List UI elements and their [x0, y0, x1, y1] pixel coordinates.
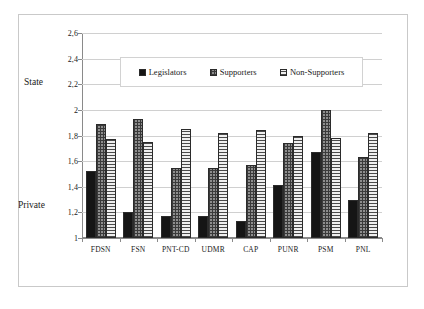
x-tick-mark [195, 238, 196, 242]
legend-swatch-icon [139, 69, 146, 76]
bar-non-supporters[interactable] [256, 130, 266, 238]
legend-item-legislators[interactable]: Legislators [139, 67, 187, 77]
bar-legislators[interactable] [198, 216, 208, 238]
y-tick-label: 1,2 [68, 208, 78, 217]
legend-item-supporters[interactable]: Supporters [210, 67, 257, 77]
x-tick-label-punr: PUNR [278, 245, 299, 254]
x-tick-mark [157, 238, 158, 242]
x-tick-mark [232, 238, 233, 242]
bar-non-supporters[interactable] [218, 133, 228, 238]
y-tick-label: 1,8 [68, 131, 78, 140]
y-tick-label: 1,6 [68, 157, 78, 166]
x-tick-mark [345, 238, 346, 242]
legend: LegislatorsSupportersNon-Supporters [120, 57, 363, 87]
legend-swatch-icon [210, 69, 217, 76]
bar-supporters[interactable] [171, 168, 181, 238]
bar-non-supporters[interactable] [181, 129, 191, 238]
plot-area: 11,21,41,61,822,22,42,6 State Private FD… [82, 33, 382, 238]
x-tick-label-udmr: UDMR [202, 245, 225, 254]
x-tick-mark [120, 238, 121, 242]
bar-legislators[interactable] [86, 171, 96, 238]
bar-supporters[interactable] [133, 119, 143, 238]
y-tick-label: 1 [74, 234, 78, 243]
bar-legislators[interactable] [311, 152, 321, 238]
x-tick-mark [382, 238, 383, 242]
x-tick-label-fsn: FSN [131, 245, 145, 254]
bar-non-supporters[interactable] [106, 139, 116, 238]
bar-legislators[interactable] [273, 185, 283, 238]
x-tick-mark [270, 238, 271, 242]
x-tick-mark [82, 238, 83, 242]
bar-supporters[interactable] [358, 157, 368, 238]
bar-group: FDSN [82, 33, 120, 238]
scale-anchor-private: Private [18, 200, 45, 210]
bar-supporters[interactable] [208, 168, 218, 238]
y-tick-label: 1,4 [68, 182, 78, 191]
y-tick-label: 2,2 [68, 80, 78, 89]
y-tick-label: 2,4 [68, 54, 78, 63]
bar-supporters[interactable] [321, 110, 331, 238]
bar-legislators[interactable] [123, 212, 133, 238]
bar-non-supporters[interactable] [368, 133, 378, 238]
x-tick-label-pnl: PNL [356, 245, 371, 254]
figure-frame: 11,21,41,61,822,22,42,6 State Private FD… [18, 14, 408, 287]
y-tick-label: 2,6 [68, 29, 78, 38]
bar-non-supporters[interactable] [293, 136, 303, 239]
bar-legislators[interactable] [161, 216, 171, 238]
x-tick-label-pnt-cd: PNT-CD [162, 245, 190, 254]
legend-label: Supporters [220, 67, 257, 77]
x-tick-label-fdsn: FDSN [91, 245, 111, 254]
bar-supporters[interactable] [96, 124, 106, 238]
x-tick-label-psm: PSM [318, 245, 334, 254]
scale-anchor-state: State [24, 77, 43, 87]
x-tick-mark [307, 238, 308, 242]
bar-legislators[interactable] [236, 221, 246, 238]
y-tick-label: 2 [74, 105, 78, 114]
legend-swatch-icon [280, 69, 287, 76]
legend-label: Legislators [149, 67, 187, 77]
bar-supporters[interactable] [246, 165, 256, 238]
legend-label: Non-Supporters [290, 67, 344, 77]
bar-non-supporters[interactable] [331, 138, 341, 238]
legend-item-non-supporters[interactable]: Non-Supporters [280, 67, 344, 77]
bar-supporters[interactable] [283, 143, 293, 238]
bar-non-supporters[interactable] [143, 142, 153, 238]
x-tick-label-cap: CAP [243, 245, 258, 254]
bar-legislators[interactable] [348, 200, 358, 238]
